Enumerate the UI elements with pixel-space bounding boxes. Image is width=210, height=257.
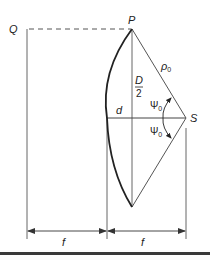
point-p-label: P xyxy=(128,14,136,26)
depth-label: d xyxy=(116,104,123,116)
half-aperture-denominator: 2 xyxy=(136,88,142,99)
reflector-diagram: Q P S ρ0 D 2 d Ψ0 Ψ0 f f xyxy=(0,0,210,257)
point-s-label: S xyxy=(190,112,198,124)
bottom-rule xyxy=(0,252,210,255)
angle-arc-upper xyxy=(163,98,171,118)
focal-length-right-label: f xyxy=(141,236,145,248)
psi-upper-label: Ψ0 xyxy=(150,100,162,112)
rho-label: ρ0 xyxy=(160,60,171,73)
focal-length-left-label: f xyxy=(62,236,66,248)
half-aperture-numerator: D xyxy=(135,74,143,86)
psi-lower-label: Ψ0 xyxy=(150,126,162,138)
angle-arc-lower xyxy=(163,118,171,138)
point-q-label: Q xyxy=(9,23,18,35)
